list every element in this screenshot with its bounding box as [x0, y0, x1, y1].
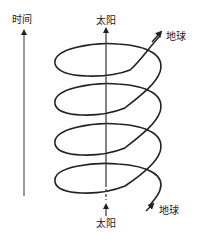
time-axis-label: 时间	[12, 15, 32, 25]
sun-bottom-label: 太阳	[96, 219, 116, 229]
earth-top-label: 地球	[166, 32, 186, 42]
earth-bottom-label: 地球	[159, 206, 179, 216]
earth-bottom-arrow	[146, 205, 152, 211]
sun-top-label: 太阳	[96, 16, 116, 26]
earth-helix-path	[55, 36, 161, 205]
